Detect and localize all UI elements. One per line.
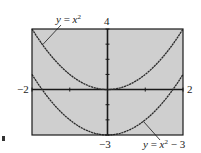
y-min-label: −3 [99, 139, 111, 150]
label-minus-3: − 3 [168, 138, 185, 150]
label-exponent: 2 [78, 13, 82, 21]
x-min-label: −2 [17, 84, 29, 95]
graph-plot [0, 0, 201, 153]
y-max-label: 4 [104, 16, 110, 27]
curve-label-y-equals-x-squared-minus-3: y = x2 − 3 [143, 139, 185, 150]
label-equals: = [148, 138, 160, 150]
curve-label-y-equals-x-squared: y = x2 [56, 14, 81, 25]
label-equals: = [61, 13, 73, 25]
figure: y = x2 4 −2 2 −3 y = x2 − 3 [0, 0, 201, 153]
figure-marker [2, 136, 5, 141]
x-max-label: 2 [187, 84, 193, 95]
